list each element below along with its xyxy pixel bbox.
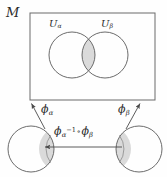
map-phi-beta-label: ϕβ [118,104,130,116]
map-phi-alpha-label: ϕα [41,104,53,116]
chart-alpha-label-base: U [49,18,57,29]
map-phi-beta-sub: β [126,109,130,117]
chart-beta-label-base: U [101,18,109,29]
chart-alpha-label: Uα [49,19,62,30]
chart-beta-label: Uβ [101,19,113,30]
manifold-chart-diagram: M Uα Uβ ϕα ϕβ ϕα−1∘ϕβ [0,0,167,177]
transition-first-sup: −1 [66,126,76,134]
transition-second-sub: β [89,131,93,139]
diagram-canvas [0,0,167,177]
map-phi-alpha-base: ϕ [41,103,49,116]
map-phi-beta-base: ϕ [118,103,126,116]
manifold-label: M [6,6,19,19]
transition-first-base: ϕ [54,125,62,138]
chart-beta-label-sub: β [110,22,114,29]
chart-alpha-label-sub: α [58,22,62,29]
transition-second-base: ϕ [81,125,89,138]
transition-map-label: ϕα−1∘ϕβ [54,126,93,138]
map-phi-alpha-sub: α [49,109,54,117]
